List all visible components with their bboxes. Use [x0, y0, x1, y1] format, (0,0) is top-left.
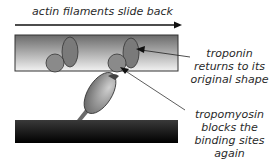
diagram: actin filaments slide back troponin retu…	[0, 0, 271, 166]
slide-back-label: actin filaments slide back	[30, 5, 175, 18]
tropomyosin-left	[46, 54, 64, 72]
troponin-left	[62, 37, 78, 67]
slide-direction-arrow	[15, 22, 182, 29]
troponin-label: troponin returns to its original shape	[188, 47, 271, 86]
tropomyosin-label: tropomyosin blocks the binding sites aga…	[188, 108, 271, 160]
actin-filament	[15, 35, 178, 71]
myosin-filament	[15, 120, 178, 143]
tropomyosin-pointer	[120, 67, 185, 110]
